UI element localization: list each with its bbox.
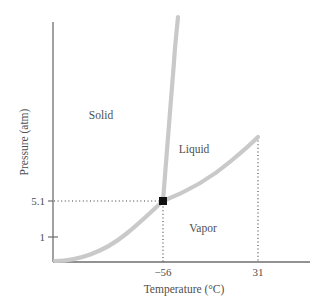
y-tick-label-1: 1 [40, 231, 46, 243]
triple-point-marker [159, 197, 167, 205]
phase-diagram-figure: 5.1 1 −56 31 Temperature (°C) Pressure (… [0, 0, 332, 299]
y-axis-title: Pressure (atm) [18, 108, 31, 175]
region-label-solid: Solid [89, 109, 114, 121]
region-labels-group: Solid Liquid Vapor [89, 109, 217, 235]
sublimation-curve [55, 201, 163, 261]
axes-group [53, 22, 310, 262]
y-tick-label-5-1: 5.1 [31, 195, 45, 207]
vaporization-curve [163, 137, 258, 201]
x-axis-title: Temperature (°C) [144, 283, 225, 296]
phase-diagram-canvas: 5.1 1 −56 31 Temperature (°C) Pressure (… [0, 0, 332, 299]
region-label-vapor: Vapor [189, 222, 217, 235]
fusion-curve [163, 17, 178, 201]
phase-curves-group [55, 17, 258, 261]
x-tick-label-31: 31 [253, 266, 264, 278]
guide-lines-group [54, 137, 258, 262]
y-tick-group: 5.1 1 [31, 195, 58, 243]
x-tick-group: −56 31 [154, 266, 263, 278]
x-tick-label-minus-56: −56 [154, 266, 172, 278]
region-label-liquid: Liquid [179, 143, 210, 156]
